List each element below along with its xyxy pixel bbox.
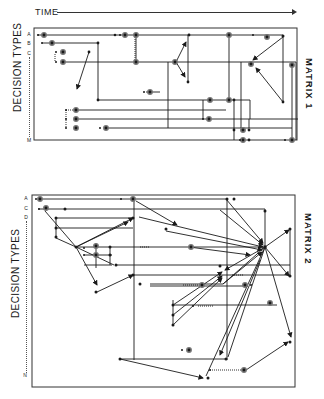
matrix2-nodes	[35, 197, 292, 380]
matrix2	[32, 195, 295, 387]
matrix1	[34, 28, 298, 140]
matrix1-frame	[34, 28, 297, 140]
matrix1-nodes	[37, 33, 294, 142]
matrix2-frame	[32, 195, 295, 387]
decision-matrices-diagram	[0, 0, 324, 399]
